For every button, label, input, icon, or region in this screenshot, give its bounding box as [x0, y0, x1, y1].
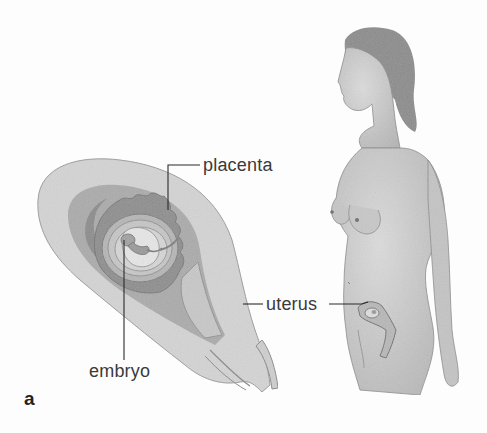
panel-label: a: [24, 388, 35, 410]
figure-canvas: placenta uterus embryo a: [0, 0, 487, 433]
embryo-label: embryo: [89, 362, 150, 380]
placenta-label: placenta: [203, 156, 273, 174]
illustration: [0, 0, 487, 433]
uterus-cross-section: [38, 159, 278, 392]
uterus-label: uterus: [266, 295, 317, 313]
woman-figure: [330, 27, 458, 395]
